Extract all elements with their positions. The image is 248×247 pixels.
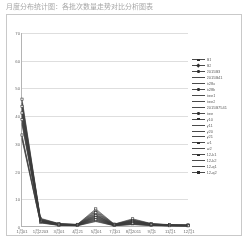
series-line [22, 113, 188, 225]
series-line [22, 139, 188, 226]
x-axis-tick-label: 7月01 [109, 229, 120, 234]
legend-item[interactable]: y20 [192, 128, 244, 134]
series-line [22, 108, 188, 225]
legend-item-label: w1 [207, 140, 212, 145]
legend-swatch-icon [192, 87, 205, 92]
legend-item-label: bee2 [207, 99, 216, 104]
legend-item-label: 2015B7541 [207, 105, 227, 110]
x-axis-tick-label: 3月01 [54, 229, 65, 234]
x-axis-tick-label: 11月1 [165, 229, 176, 234]
x-axis-tick-label: 4月21 [72, 229, 83, 234]
legend-item-label: bee [207, 111, 214, 116]
legend-item[interactable]: b28a [192, 81, 244, 87]
y-axis-tick-label: 70 [15, 31, 20, 36]
y-axis-tick-label: 40 [15, 114, 20, 119]
legend-item[interactable]: 2015B41 [192, 75, 244, 81]
series-line [22, 135, 188, 226]
legend-item[interactable]: 12-k2 [192, 158, 244, 164]
series-marker [21, 112, 23, 114]
legend-item-label: y21 [207, 134, 213, 139]
legend-item[interactable]: y10 [192, 116, 244, 122]
legend-item[interactable]: w2 [192, 146, 244, 152]
series-line [22, 115, 188, 226]
legend-swatch-icon [192, 117, 205, 122]
chart-legend: B1B22015B32015B41b28ab28bbee1bee22015B75… [192, 57, 244, 176]
legend-item[interactable]: 12-q1 [192, 164, 244, 170]
legend-item[interactable]: bee2 [192, 99, 244, 105]
legend-swatch-icon [192, 81, 205, 86]
series-line [22, 106, 188, 225]
series-line [22, 118, 188, 226]
legend-swatch-icon [192, 140, 205, 145]
chart-title: 月度分布统计图：各批次数量走势对比分析图表 [6, 1, 206, 12]
legend-item-label: B1 [207, 57, 212, 62]
legend-swatch-icon [192, 99, 205, 104]
legend-item[interactable]: 2015B3 [192, 69, 244, 75]
legend-swatch-icon [192, 123, 205, 128]
legend-swatch-icon [192, 93, 205, 98]
legend-item-label: y10 [207, 117, 213, 122]
series-marker [21, 134, 23, 136]
legend-swatch-icon [192, 69, 205, 74]
series-marker [21, 98, 23, 100]
legend-swatch-icon [192, 134, 205, 139]
legend-swatch-icon [192, 164, 205, 169]
legend-item-label: B2 [207, 63, 212, 68]
x-axis-tick-label: 9月1 [148, 229, 157, 234]
legend-swatch-icon [192, 57, 205, 62]
series-line [22, 116, 188, 225]
legend-swatch-icon [192, 152, 205, 157]
series-line [22, 121, 188, 225]
legend-item[interactable]: y11 [192, 122, 244, 128]
legend-item-label: y20 [207, 129, 213, 134]
legend-swatch-icon [192, 111, 205, 116]
y-axis-tick-label: 10 [15, 197, 20, 202]
legend-item[interactable]: bee [192, 110, 244, 116]
legend-item[interactable]: B2 [192, 63, 244, 69]
legend-item-label: b28a [207, 81, 216, 86]
legend-item-label: 12-q2 [207, 170, 217, 175]
legend-item[interactable]: 12-k1 [192, 152, 244, 158]
x-axis-tick-label: 8月2011 [126, 229, 141, 234]
legend-swatch-icon [192, 129, 205, 134]
legend-item[interactable]: b28b [192, 87, 244, 93]
legend-item-label: 12-q1 [207, 164, 217, 169]
series-marker [21, 118, 23, 120]
legend-item-label: bee1 [207, 93, 216, 98]
legend-item[interactable]: y21 [192, 134, 244, 140]
legend-swatch-icon [192, 75, 205, 80]
series-line [22, 99, 188, 225]
legend-item-label: y11 [207, 123, 213, 128]
legend-item[interactable]: w1 [192, 140, 244, 146]
y-axis-tick-label: 30 [15, 141, 20, 146]
y-axis-tick-label: 50 [15, 86, 20, 91]
series-line [22, 105, 188, 225]
series-line [22, 101, 188, 225]
series-line [22, 137, 188, 226]
legend-swatch-icon [192, 105, 205, 110]
legend-swatch-icon [192, 158, 205, 163]
legend-swatch-icon [192, 146, 205, 151]
series-line [22, 125, 188, 226]
plot-area: 010203040506070 1月011月22033月014月215月017月… [21, 33, 188, 227]
legend-item-label: 12-k2 [207, 158, 217, 163]
legend-item[interactable]: 2015B7541 [192, 105, 244, 111]
series-marker [21, 105, 23, 107]
legend-swatch-icon [192, 63, 205, 68]
series-line [22, 103, 188, 225]
series-line [22, 123, 188, 226]
x-axis-tick-label: 1月01 [17, 229, 28, 234]
legend-item-label: 2015B41 [207, 75, 223, 80]
chart-page: 月度分布统计图：各批次数量走势对比分析图表 010203040506070 1月… [0, 0, 248, 247]
legend-item[interactable]: B1 [192, 57, 244, 63]
legend-item-label: 12-k1 [207, 152, 217, 157]
series-line [22, 110, 188, 226]
x-axis-tick-label: 5月01 [91, 229, 102, 234]
y-axis-tick-label: 20 [15, 169, 20, 174]
series-line [22, 120, 188, 226]
legend-item-label: 2015B3 [207, 69, 221, 74]
legend-item[interactable]: bee1 [192, 93, 244, 99]
legend-item[interactable]: 12-q2 [192, 170, 244, 176]
series-lines [22, 33, 188, 226]
series-line [22, 138, 188, 226]
